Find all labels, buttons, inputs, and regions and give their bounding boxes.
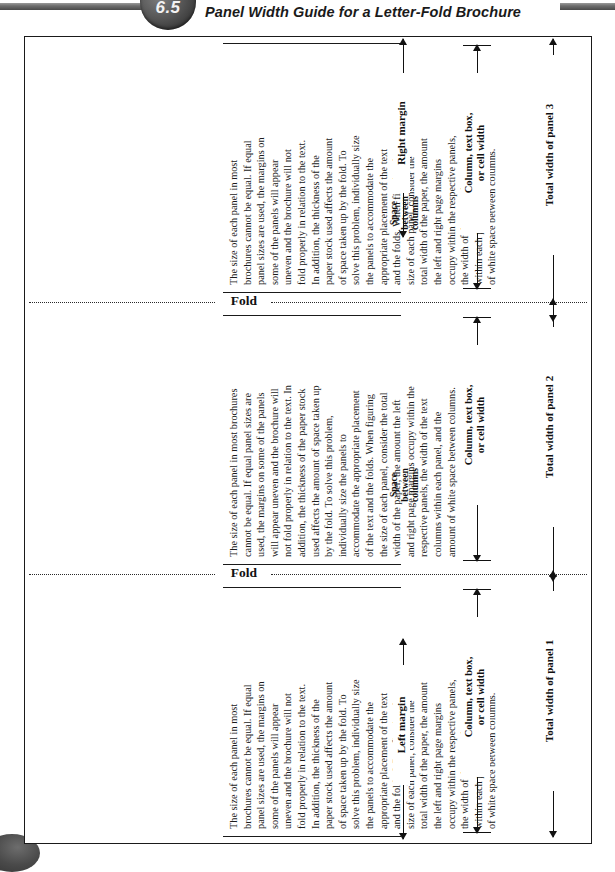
fold-dotted-line-right-2 bbox=[271, 574, 587, 575]
header-rule-right bbox=[560, 3, 615, 10]
panel-1-column-width-label: Column, text box, or cell width bbox=[461, 617, 490, 777]
fold-separator-1: Fold Space between columns bbox=[25, 291, 591, 315]
header-rule-left bbox=[0, 3, 158, 10]
panel-1: The size of each panel in most brochures… bbox=[25, 587, 591, 835]
figure-frame: The size of each panel in most brochures… bbox=[24, 36, 592, 844]
panel-2-total-width-label: Total width of panel 2 bbox=[541, 327, 558, 527]
panel-3: The size of each panel in most brochures… bbox=[25, 43, 591, 291]
panel-3-total-width-label: Total width of panel 3 bbox=[541, 55, 558, 255]
page-title: Panel Width Guide for a Letter-Fold Broc… bbox=[205, 4, 521, 20]
panel-2: The size of each panel in most brochures… bbox=[25, 315, 591, 563]
page-header: 6.5 Panel Width Guide for a Letter-Fold … bbox=[0, 0, 615, 26]
fold-label-1: Fold bbox=[221, 293, 267, 309]
fold-label-2: Fold bbox=[221, 565, 267, 581]
left-margin-label: Left margin bbox=[393, 665, 410, 785]
figure-number: 6.5 bbox=[140, 0, 196, 18]
panel-3-body: The size of each panel in most brochures… bbox=[227, 49, 499, 285]
fold-dotted-line-left-2 bbox=[29, 574, 215, 575]
space-between-columns-label-2: Space between columns bbox=[389, 445, 421, 525]
figure-number-badge: 6.5 bbox=[140, 0, 196, 30]
panel-3-column-width-label: Column, text box, or cell width bbox=[461, 73, 490, 233]
panel-2-column-width-label: Column, text box, or cell width bbox=[461, 345, 490, 505]
fold-dotted-line-left bbox=[29, 302, 215, 303]
panel-1-total-width-label: Total width of panel 1 bbox=[541, 591, 558, 791]
space-between-columns-label-1: Space between columns bbox=[389, 173, 421, 253]
panel-1-body: The size of each panel in most brochures… bbox=[227, 593, 499, 829]
fold-separator-2: Fold Space between columns bbox=[25, 563, 591, 587]
panel-2-body: The size of each panel in most brochures… bbox=[227, 319, 458, 557]
fold-dotted-line-right bbox=[271, 302, 587, 303]
